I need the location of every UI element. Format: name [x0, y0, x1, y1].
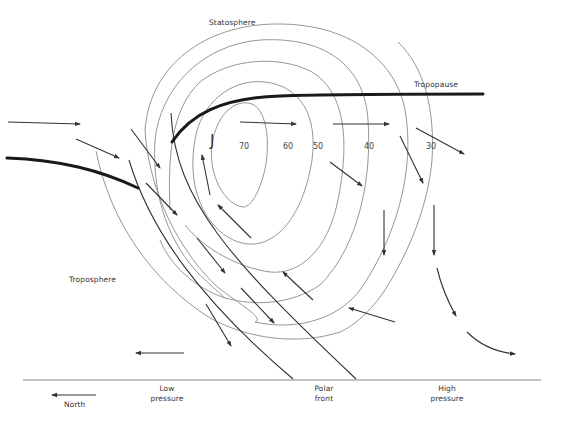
wind-arrows: [8, 122, 515, 354]
polar-front-label: Polar front: [311, 384, 337, 404]
tropopause-lines: [7, 94, 483, 188]
isotach-contours: [96, 24, 433, 339]
isotach-70: [211, 103, 267, 207]
isotach-label-70: 70: [239, 142, 249, 151]
isotach-left-1: [145, 130, 257, 322]
isotach-60: [193, 82, 313, 245]
tropopause-left: [7, 158, 138, 188]
isotach-50: [169, 61, 343, 272]
north-label: North: [64, 400, 85, 410]
isotach-label-30: 30: [426, 142, 436, 151]
front-line-2: [171, 113, 356, 379]
jet-core-label: J: [210, 132, 214, 150]
isotach-label-50: 50: [313, 142, 323, 151]
troposphere-label: Troposphere: [69, 275, 116, 285]
stratosphere-label: Statosphere: [209, 18, 256, 28]
isotach-40: [155, 40, 369, 303]
tropopause-label: Tropopause: [414, 80, 458, 90]
low-pressure-label: Low pressure: [150, 384, 184, 404]
isotach-label-40: 40: [364, 142, 374, 151]
tropopause-right: [172, 94, 483, 142]
high-pressure-label: High pressure: [430, 384, 464, 404]
jet-stream-diagram: [0, 0, 563, 429]
isotach-label-60: 60: [283, 142, 293, 151]
isotach-left-2: [96, 151, 340, 339]
